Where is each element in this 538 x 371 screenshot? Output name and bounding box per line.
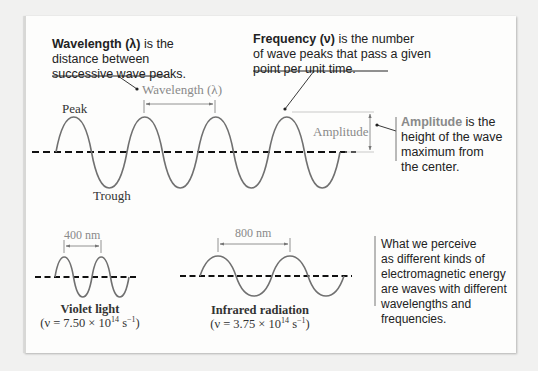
wavelength-term: Wavelength (λ) xyxy=(52,37,140,51)
frequency-term: Frequency (ν) xyxy=(253,32,335,46)
infrared-frequency: (ν = 3.75 × 1014 s−1) xyxy=(180,317,340,332)
energy-note: What we perceive as different kinds of e… xyxy=(381,237,507,327)
amplitude-leader xyxy=(377,125,396,131)
peak-label: Peak xyxy=(62,101,87,117)
amplitude-callout: Amplitude is the height of the wave maxi… xyxy=(401,115,502,175)
frequency-callout: Frequency (ν) is the number of wave peak… xyxy=(253,32,431,77)
infrared-wavelength-label: 800 nm xyxy=(235,226,271,241)
trough-label: Trough xyxy=(93,188,131,204)
violet-light-title: Violet light xyxy=(20,302,160,317)
infrared-radiation-title: Infrared radiation xyxy=(180,303,340,318)
wavelength-dimension-label: Wavelength (λ) xyxy=(142,82,222,98)
violet-wavelength-label: 400 nm xyxy=(64,228,100,243)
violet-frequency: (ν = 7.50 × 1014 s−1) xyxy=(20,316,160,331)
amplitude-term: Amplitude xyxy=(401,115,462,129)
amplitude-dimension-label: Amplitude xyxy=(313,124,369,140)
wavelength-callout: Wavelength (λ) is the distance between s… xyxy=(52,37,186,82)
